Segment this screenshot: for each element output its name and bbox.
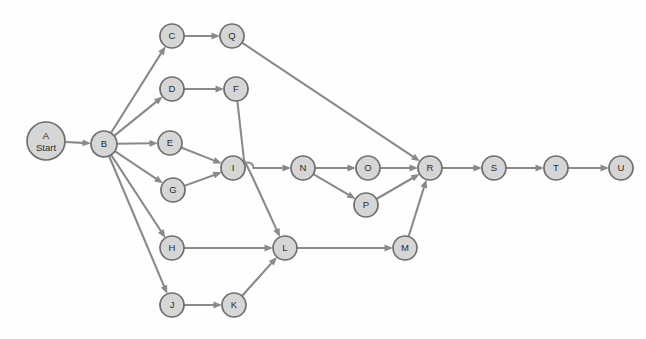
node-circle-q[interactable] <box>220 24 244 48</box>
edge-c-to-q <box>184 33 220 40</box>
node-circle-e[interactable] <box>158 131 182 155</box>
edge-n-to-p <box>313 174 355 199</box>
edge-b-to-g <box>115 151 163 183</box>
edge-l-to-m <box>297 245 393 252</box>
node-circle-c[interactable] <box>160 24 184 48</box>
edge-arrowhead <box>265 245 274 252</box>
graph-node-r[interactable]: R <box>418 156 442 180</box>
edge-path <box>109 156 164 287</box>
node-circle-h[interactable] <box>160 236 184 260</box>
graph-node-m[interactable]: M <box>393 236 417 260</box>
graph-node-j[interactable]: J <box>160 293 184 317</box>
graph-node-e[interactable]: E <box>158 131 182 155</box>
node-circle-d[interactable] <box>160 77 184 101</box>
edge-arrowhead <box>411 174 420 181</box>
edge-p-to-r <box>376 174 419 199</box>
node-circle-g[interactable] <box>161 178 185 202</box>
node-circle-k[interactable] <box>222 293 246 317</box>
edge-path <box>409 187 424 236</box>
graph-node-u[interactable]: U <box>609 156 633 180</box>
edge-path <box>242 43 413 157</box>
graph-node-o[interactable]: O <box>356 156 380 180</box>
edge-path <box>313 174 348 195</box>
edge-k-to-l <box>242 257 277 296</box>
edge-r-to-s <box>442 165 482 172</box>
edge-arrowhead <box>82 139 91 146</box>
edge-arrowhead <box>161 285 167 294</box>
graph-svg: AStartBCQDFEGINOPRSTUHLMJK <box>0 0 646 339</box>
node-circle-j[interactable] <box>160 293 184 317</box>
node-circle-n[interactable] <box>291 156 315 180</box>
edge-j-to-k <box>184 302 222 309</box>
graph-node-p[interactable]: P <box>354 193 378 217</box>
edge-h-to-l <box>184 245 273 252</box>
edge-n-to-o <box>315 165 356 172</box>
nodes-layer: AStartBCQDFEGINOPRSTUHLMJK <box>27 24 633 317</box>
edge-s-to-t <box>506 165 544 172</box>
edge-b-to-e <box>117 140 158 147</box>
graph-canvas: AStartBCQDFEGINOPRSTUHLMJK <box>0 0 646 339</box>
edge-arrowhead <box>536 165 545 172</box>
edge-o-to-r <box>380 165 418 172</box>
edge-path <box>111 53 161 133</box>
node-circle-t[interactable] <box>544 156 568 180</box>
node-circle-o[interactable] <box>356 156 380 180</box>
edge-arrowhead <box>213 172 222 178</box>
graph-node-t[interactable]: T <box>544 156 568 180</box>
graph-node-d[interactable]: D <box>160 77 184 101</box>
edge-arrowhead <box>273 228 280 237</box>
graph-node-b[interactable]: B <box>91 131 117 157</box>
edge-path <box>184 175 214 186</box>
edge-g-to-i <box>184 172 221 186</box>
edge-arrowhead <box>474 165 483 172</box>
node-circle-i[interactable] <box>221 156 245 180</box>
edge-arrowhead <box>421 179 427 188</box>
edge-arrowhead <box>212 33 221 40</box>
node-circle-u[interactable] <box>609 156 633 180</box>
graph-node-n[interactable]: N <box>291 156 315 180</box>
node-circle-f[interactable] <box>224 77 248 101</box>
graph-node-c[interactable]: C <box>160 24 184 48</box>
graph-node-h[interactable]: H <box>160 236 184 260</box>
edge-path <box>115 151 157 179</box>
edge-t-to-u <box>568 165 609 172</box>
node-circle-r[interactable] <box>418 156 442 180</box>
edge-b-to-c <box>111 46 166 133</box>
edge-arrowhead <box>410 165 419 172</box>
graph-node-q[interactable]: Q <box>220 24 244 48</box>
edge-path <box>242 263 272 296</box>
edge-arrowhead <box>158 229 165 238</box>
edge-e-to-i <box>181 147 222 163</box>
edge-arrowhead <box>347 192 356 199</box>
edge-arrowhead <box>348 165 357 172</box>
graph-node-l[interactable]: L <box>273 236 297 260</box>
edge-b-to-j <box>109 156 167 294</box>
edge-arrowhead <box>214 302 223 309</box>
node-circle-m[interactable] <box>393 236 417 260</box>
node-circle-b[interactable] <box>91 131 117 157</box>
edge-d-to-f <box>184 86 224 93</box>
graph-node-f[interactable]: F <box>224 77 248 101</box>
edge-arrowhead <box>158 46 165 55</box>
edge-arrowhead <box>411 154 420 162</box>
graph-node-g[interactable]: G <box>161 178 185 202</box>
graph-node-i[interactable]: I <box>221 156 245 180</box>
graph-node-s[interactable]: S <box>482 156 506 180</box>
edge-m-to-r <box>409 179 428 236</box>
node-circle-l[interactable] <box>273 236 297 260</box>
graph-node-a[interactable]: AStart <box>27 122 65 160</box>
edge-arrowhead <box>154 176 163 184</box>
edge-arrowhead <box>149 140 158 147</box>
edge-arrowhead <box>385 245 394 252</box>
edge-path <box>65 142 83 143</box>
edge-arrowhead <box>601 165 610 172</box>
edges-layer <box>65 33 609 309</box>
graph-node-k[interactable]: K <box>222 293 246 317</box>
node-circle-a[interactable] <box>27 122 65 160</box>
edge-a-to-b <box>65 139 91 146</box>
edge-arrowhead <box>283 165 292 172</box>
node-circle-p[interactable] <box>354 193 378 217</box>
edge-q-to-r <box>242 43 420 162</box>
node-circle-s[interactable] <box>482 156 506 180</box>
edge-path <box>181 147 214 160</box>
